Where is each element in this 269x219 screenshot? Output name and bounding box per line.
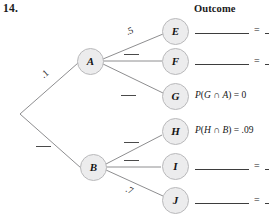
outcome-g-var1: G xyxy=(204,90,211,100)
outcome-row-i[interactable]: = xyxy=(195,160,269,171)
branch-label-a-g-blank[interactable] xyxy=(121,95,136,96)
branch-line-b-j xyxy=(106,170,163,196)
branch-label-b-i-blank[interactable] xyxy=(124,160,139,161)
tree-node-a[interactable]: A xyxy=(77,48,104,75)
tree-node-g[interactable]: G xyxy=(162,83,189,110)
outcome-blank-right-j[interactable] xyxy=(265,203,269,204)
outcome-equals-f: = xyxy=(254,55,260,66)
outcome-blank-left-e[interactable] xyxy=(195,33,249,34)
intersection-icon-h: ∩ xyxy=(211,125,223,135)
outcome-blank-left-i[interactable] xyxy=(195,169,249,170)
problem-number: 14. xyxy=(3,2,18,14)
tree-node-b-label: B xyxy=(90,161,97,173)
branch-line-root-a xyxy=(20,63,78,114)
outcome-row-e[interactable]: = xyxy=(195,24,269,35)
outcome-equals-e: = xyxy=(254,24,260,35)
outcome-blank-left-j[interactable] xyxy=(195,203,249,204)
tree-node-i[interactable]: I xyxy=(162,153,189,180)
branch-line-root-b xyxy=(20,114,81,168)
outcome-g-value: 0 xyxy=(242,90,247,100)
branch-line-a-e xyxy=(103,34,163,59)
tree-node-b[interactable]: B xyxy=(80,154,107,181)
tree-node-e-label: E xyxy=(172,25,179,37)
tree-node-j-label: J xyxy=(173,194,179,206)
outcome-equals-j: = xyxy=(254,194,260,205)
outcome-expression-h: P(H ∩ B) = .09 xyxy=(195,125,253,135)
outcome-expression-g: P(G ∩ A) = 0 xyxy=(195,90,246,100)
branch-label-a-f-blank[interactable] xyxy=(124,54,139,55)
tree-node-a-label: A xyxy=(87,55,94,67)
outcome-blank-right-e[interactable] xyxy=(265,33,269,34)
outcome-blank-right-i[interactable] xyxy=(265,169,269,170)
outcome-h-equals: = xyxy=(231,125,241,135)
tree-node-h-label: H xyxy=(171,125,180,137)
outcome-row-j[interactable]: = xyxy=(195,194,269,205)
intersection-icon-g: ∩ xyxy=(211,90,223,100)
outcome-row-f[interactable]: = xyxy=(195,55,269,66)
branch-label-root-b-blank[interactable] xyxy=(36,146,51,147)
tree-node-e[interactable]: E xyxy=(162,18,189,45)
tree-node-j[interactable]: J xyxy=(162,187,189,214)
tree-node-i-label: I xyxy=(173,160,177,172)
branch-label-b-h-blank[interactable] xyxy=(124,142,139,143)
outcome-h-var1: H xyxy=(204,125,211,135)
outcome-h-value: .09 xyxy=(242,125,254,135)
branch-line-a-g xyxy=(103,64,163,93)
outcome-equals-i: = xyxy=(254,160,260,171)
outcome-blank-right-f[interactable] xyxy=(265,64,269,65)
tree-node-f-label: F xyxy=(172,55,179,67)
tree-node-f[interactable]: F xyxy=(162,48,189,75)
tree-node-g-label: G xyxy=(172,90,180,102)
outcome-blank-left-f[interactable] xyxy=(195,64,249,65)
outcome-column-header: Outcome xyxy=(194,3,236,14)
outcome-g-equals: = xyxy=(231,90,241,100)
tree-node-h[interactable]: H xyxy=(162,118,189,145)
